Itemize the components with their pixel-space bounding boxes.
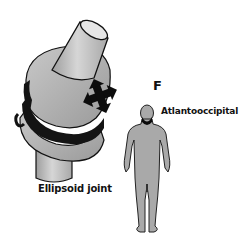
joint-type-label: Ellipsoid joint xyxy=(38,183,112,194)
example-joint-label: Atlantooccipital xyxy=(161,106,238,116)
ellipsoid-joint-diagram: F Atlantooccipital Ellipsoid joint xyxy=(0,0,246,244)
illustration xyxy=(0,0,246,244)
panel-letter: F xyxy=(153,78,162,93)
human-body-silhouette xyxy=(124,105,170,232)
